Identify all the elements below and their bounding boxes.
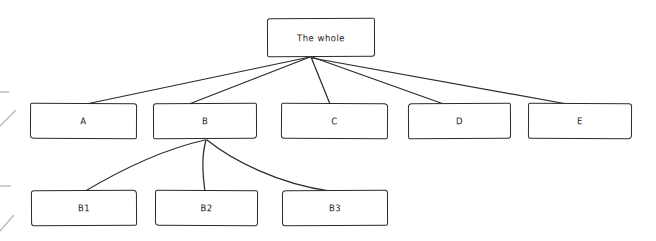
node-label-d: D bbox=[456, 116, 463, 127]
node-box-b2[interactable]: B2 bbox=[155, 190, 258, 226]
node-box-d[interactable]: D bbox=[408, 103, 511, 140]
edge-root-to-b bbox=[184, 57, 310, 106]
edge-b-to-b1 bbox=[82, 140, 205, 193]
edge-b-to-b3 bbox=[207, 140, 330, 191]
margin-artifact-slash-lower bbox=[0, 215, 14, 231]
node-box-a[interactable]: A bbox=[30, 103, 137, 140]
node-label-b: B bbox=[202, 116, 208, 127]
edge-root-to-e bbox=[312, 58, 578, 106]
margin-artifact-group bbox=[0, 92, 16, 231]
node-box-b[interactable]: B bbox=[153, 103, 257, 139]
edge-b-to-b2 bbox=[203, 140, 206, 192]
node-box-b3[interactable]: B3 bbox=[282, 190, 388, 226]
edge-root-to-d bbox=[312, 57, 452, 107]
node-label-b3: B3 bbox=[329, 203, 341, 214]
margin-artifact-slash-upper bbox=[0, 110, 16, 126]
node-box-b1[interactable]: B1 bbox=[31, 190, 137, 227]
edge-root-to-c bbox=[311, 57, 330, 104]
node-label-c: C bbox=[331, 116, 337, 127]
edge-root-to-a bbox=[72, 57, 310, 107]
diagram-canvas: The wholeABCDEB1B2B3 bbox=[0, 0, 656, 241]
node-label-root: The whole bbox=[297, 32, 345, 43]
node-box-root[interactable]: The whole bbox=[267, 18, 375, 57]
node-label-b1: B1 bbox=[78, 203, 90, 214]
node-label-a: A bbox=[80, 116, 86, 127]
node-box-e[interactable]: E bbox=[528, 103, 632, 139]
node-label-e: E bbox=[577, 116, 583, 127]
node-label-b2: B2 bbox=[200, 203, 212, 214]
node-box-c[interactable]: C bbox=[281, 103, 388, 140]
